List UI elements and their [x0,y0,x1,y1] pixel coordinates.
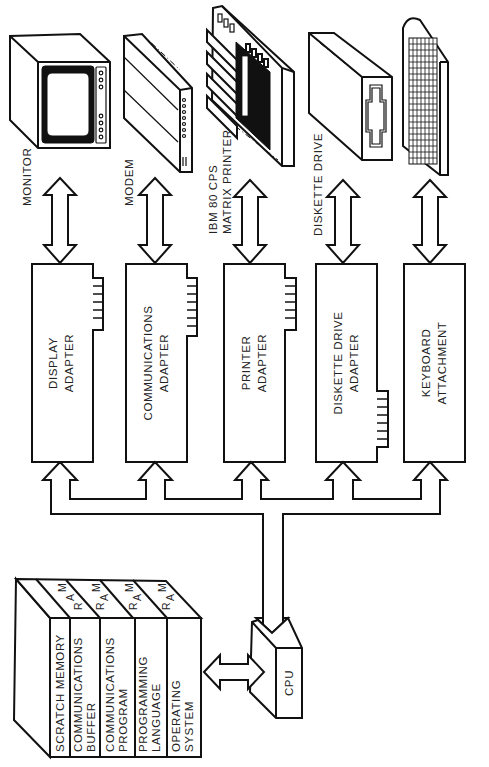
adapter-display-line2: ADAPTER [63,334,75,393]
double-arrow-diskette [327,180,359,263]
ram-segment-prog-language-line2: LANGUAGE [150,683,162,752]
ram-segment-prog-language-line1: PROGRAMMING [137,656,149,752]
double-arrow-monitor [44,178,76,263]
device-label-printer-line1: IBM 80 CPS [207,165,219,234]
monitor-icon [10,34,110,148]
ram-letter: M [90,583,102,592]
modem-icon [124,34,192,172]
adapter-printer-line1: PRINTER [240,336,252,391]
ram-letter: A [164,593,176,601]
ram-letter: A [131,593,143,601]
adapter-printer-line2: ADAPTER [256,334,268,393]
adapter-communications-line1: COMMUNICATIONS [142,306,154,421]
ram-tab-r: R [72,602,84,610]
ram-letter: M [156,583,168,592]
ram-segment-scratch-memory: SCRATCH MEMORY [54,634,66,752]
ram-segment-comm-buffer-line2: BUFFER [85,702,97,752]
ram-letter: M [56,583,68,592]
adapter-diskette-drive-line2: ADAPTER [348,334,360,393]
bus-arrow-to-cpu [256,514,288,633]
ram-segment-os-line2: SYSTEM [183,701,195,752]
device-label-diskette-drive: DISKETTE DRIVE [312,133,324,236]
device-label-monitor: MONITOR [21,148,33,206]
cpu-label: CPU [283,670,295,696]
ram-segment-os-line1: OPERATING [170,680,182,752]
ram-letter: R [127,602,139,610]
ram-tab-labels: R A [72,602,84,610]
adapter-keyboard [404,264,465,462]
ram-letter: A [98,593,110,601]
ram-segment-comm-buffer-line1: COMMUNICATIONS [72,637,84,752]
adapter-diskette-drive-line1: DISKETTE DRIVE [332,312,344,415]
ram-segment-comm-program-line1: COMMUNICATIONS [104,637,116,752]
keyboard-icon [403,18,448,175]
ram-letter: M [123,583,135,592]
system-diagram: MONITOR MODEM IBM 80 CPS MATRIX PRINTER [0,0,489,767]
ram-letter: A [64,593,76,601]
adapter-communications-line2: ADAPTER [158,334,170,393]
device-label-printer-line2: MATRIX PRINTER [221,129,233,234]
double-arrow-keyboard [414,180,446,263]
adapter-keyboard-line2: ATTACHMENT [436,322,448,405]
ram-letter: R [160,602,172,610]
double-arrow-modem [139,178,171,263]
double-arrow-printer [234,180,266,263]
ram-segment-comm-program-line2: PROGRAM [117,688,129,752]
adapter-keyboard-line1: KEYBOARD [420,329,432,398]
device-label-modem: MODEM [123,159,135,206]
adapter-display-line1: DISPLAY [47,337,59,389]
ram-letter: R [94,602,106,610]
